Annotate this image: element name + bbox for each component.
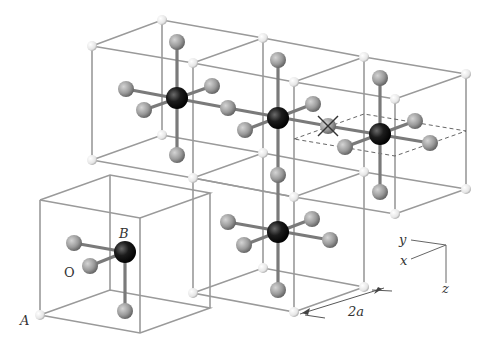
dimension-marker [300,287,392,318]
label-2a: 2a [347,304,364,319]
oxygen-atom [372,184,388,200]
oxygen-atom [236,237,252,253]
oxygen-atom [422,135,438,151]
label-o: O [64,265,75,280]
oxygen-atom [169,147,185,163]
oxygen-atom [305,96,321,112]
oxygen-atom [204,78,220,94]
oxygen-atom [337,139,353,155]
axis-label-z: z [441,281,449,296]
oxygen-atom [117,303,133,319]
oxygen-atom [407,113,423,129]
axis-label-y: y [398,232,407,247]
oxygen-atom [118,81,134,97]
a-atom-labeled [35,310,45,320]
b-atom [166,87,188,109]
oxygen-atom [220,214,236,230]
a-atoms [35,15,471,320]
oxygen-atom [270,52,286,68]
b-atom [267,221,289,243]
oxygen-atom [372,70,388,86]
axis-triad [411,240,446,283]
axis-label-x: x [400,253,408,268]
oxygen-atom [270,167,286,183]
vacancy-cross-icon [318,116,338,136]
b-atom [114,241,136,263]
oxygen-atom [169,34,185,50]
label-b: B [118,226,129,241]
oxygen-atom [304,211,320,227]
b-atom [267,107,289,129]
oxygen-atom [82,258,98,274]
perovskite-crystal-diagram: A B O 2a y x z [0,0,488,350]
b-atom [369,123,391,145]
oxygen-atom [136,102,152,118]
label-a: A [19,313,29,328]
oxygen-atom [220,100,236,116]
oxygen-atom [66,235,82,251]
oxygen-atom [237,122,253,138]
oxygen-atom [322,232,338,248]
oxygen-atom [270,282,286,298]
